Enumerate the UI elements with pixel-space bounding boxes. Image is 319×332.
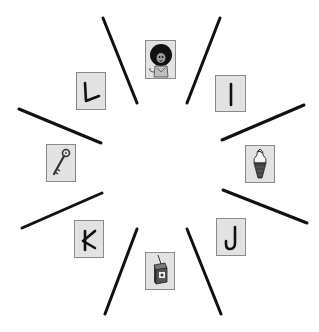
card-letter-j[interactable]: J [216,218,246,256]
card-letter-i[interactable]: I [215,75,246,112]
letter-l-glyph: L [78,75,104,107]
svg-text:J: J [230,240,232,242]
letter-j-glyph: J [218,221,244,253]
lion-icon [147,42,175,78]
divider-line [103,18,137,103]
svg-text:L: L [91,94,92,95]
divider-line [105,229,137,314]
card-ice-cream[interactable] [245,145,275,183]
card-key[interactable] [46,144,76,182]
svg-text:K: K [89,242,90,243]
card-lion[interactable] [145,40,176,79]
divider-line [19,109,101,143]
card-letter-l[interactable]: L [76,72,106,110]
card-letter-k[interactable]: K [74,220,104,258]
juice-box-icon [148,254,172,288]
key-icon [49,146,73,180]
card-juice-box[interactable] [145,252,175,290]
ice-cream-cone-icon [248,147,272,181]
letter-k-glyph: K [76,223,102,255]
letter-i-glyph: I [218,78,244,110]
